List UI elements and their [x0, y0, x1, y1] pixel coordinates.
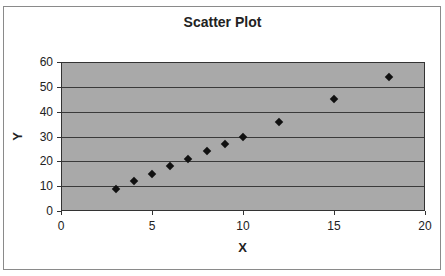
gridline: [62, 112, 424, 113]
y-tick-label: 50: [40, 81, 53, 93]
y-tick-mark: [57, 112, 61, 113]
y-axis-title: Y: [10, 132, 25, 141]
x-tick-mark: [334, 211, 335, 215]
x-tick-mark: [243, 211, 244, 215]
y-tick-mark: [57, 186, 61, 187]
x-tick-label: 0: [46, 220, 76, 232]
y-tick-mark: [57, 161, 61, 162]
x-tick-label: 5: [137, 220, 167, 232]
gridline: [62, 87, 424, 88]
gridline: [62, 161, 424, 162]
x-tick-mark: [61, 211, 62, 215]
y-tick-mark: [57, 87, 61, 88]
y-tick-label: 10: [40, 180, 53, 192]
x-tick-mark: [425, 211, 426, 215]
y-tick-mark: [57, 62, 61, 63]
x-tick-label: 20: [410, 220, 440, 232]
x-tick-label: 10: [228, 220, 258, 232]
y-tick-label: 40: [40, 106, 53, 118]
chart-title: Scatter Plot: [0, 14, 445, 30]
x-axis-title: X: [0, 240, 445, 255]
y-tick-label: 30: [40, 131, 53, 143]
y-tick-label: 60: [40, 56, 53, 68]
x-tick-label: 15: [319, 220, 349, 232]
y-tick-mark: [57, 137, 61, 138]
y-tick-label: 20: [40, 155, 53, 167]
y-tick-label: 0: [46, 205, 53, 217]
x-tick-mark: [152, 211, 153, 215]
